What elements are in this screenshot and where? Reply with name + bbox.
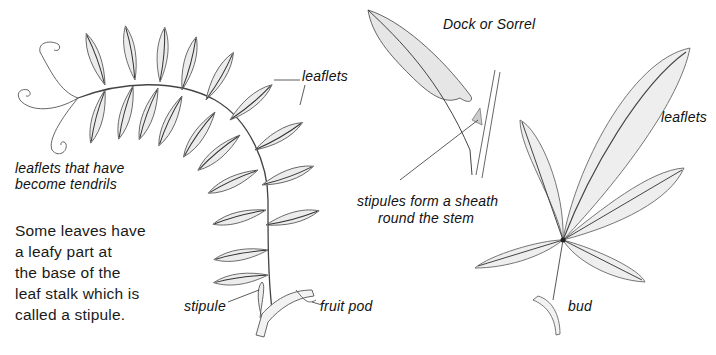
label-sheath-line2: round the stem [378,210,474,226]
label-bud: bud [568,298,592,314]
body-text-line: leaf stalk which is [15,283,165,304]
label-tendrils-line2: become tendrils [15,176,117,192]
label-dock-title: Dock or Sorrel [443,16,535,32]
stipule-description: Some leaves have a leafy part at the bas… [15,220,165,325]
label-tendrils-line1: leaflets that have [15,160,124,176]
body-text-line: a leafy part at [15,241,165,262]
body-text-line: Some leaves have [15,220,165,241]
dock-leaf-drawing [368,10,500,180]
label-palmate-leaflets: leaflets [661,109,707,125]
body-text-line: the base of the [15,262,165,283]
label-vetch-leaflets: leaflets [302,68,348,84]
palmate-leaf-drawing [475,48,690,335]
label-stipule: stipule [184,298,226,314]
body-text-line: called a stipule. [15,304,165,325]
label-sheath-line1: stipules form a sheath [357,193,498,209]
label-fruit-pod: fruit pod [320,298,372,314]
